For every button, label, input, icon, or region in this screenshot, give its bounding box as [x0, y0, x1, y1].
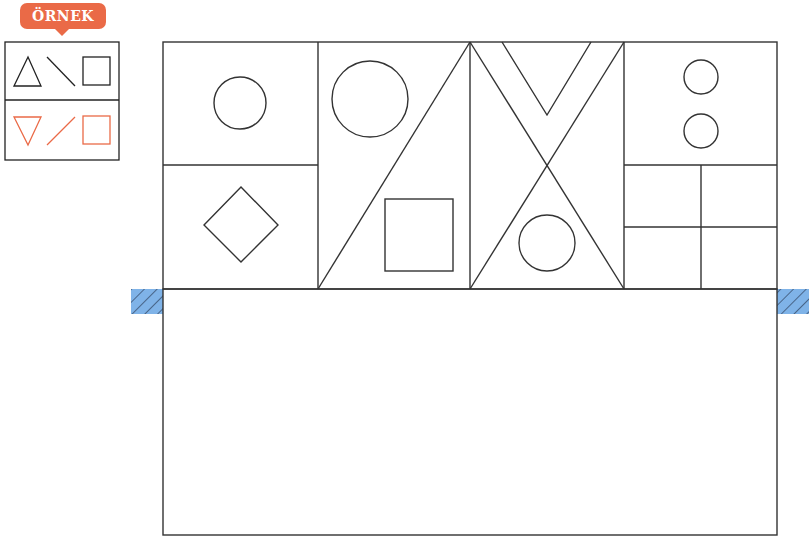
puzzle-canvas: [0, 0, 809, 545]
slash-line-icon: [47, 117, 75, 145]
square-icon: [83, 57, 110, 85]
example-box: [5, 42, 119, 160]
inverted-triangle-icon: [14, 117, 41, 145]
column-2: [318, 42, 470, 289]
column-1: [163, 77, 318, 262]
circle-icon: [684, 60, 718, 94]
diamond-icon: [204, 187, 278, 262]
square-icon: [385, 199, 453, 271]
triangle-icon: [14, 57, 41, 86]
column-3: [470, 42, 624, 289]
answer-area: [163, 289, 777, 535]
mirror-marker-left: [131, 289, 163, 314]
circle-icon: [332, 61, 408, 137]
backslash-line-icon: [47, 57, 75, 86]
column-4: [624, 60, 777, 289]
circle-icon: [684, 114, 718, 148]
v-shape: [502, 42, 591, 115]
mirror-marker-right: [777, 289, 809, 314]
circle-icon: [519, 215, 575, 271]
circle-icon: [214, 77, 266, 129]
reflected-square-icon: [83, 116, 110, 144]
diagonal-line: [318, 42, 470, 289]
